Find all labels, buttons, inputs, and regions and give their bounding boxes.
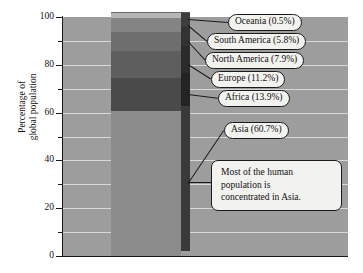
tick-label-100: 100 <box>26 12 54 22</box>
tick-label-0: 0 <box>26 251 54 261</box>
tick-major-100 <box>56 17 63 18</box>
callout-asia[interactable]: Asia (60.7%) <box>224 122 289 139</box>
bar-segment-north-america <box>111 32 181 51</box>
y-axis-title-line-2: global population <box>28 27 39 187</box>
annotation-line-3: concentrated in Asia. <box>221 191 333 204</box>
bar-segment-side-oceania <box>181 12 190 13</box>
tick-major-60 <box>56 113 63 114</box>
stacked-bar <box>111 17 195 256</box>
bar-segment-side-europe <box>181 46 190 73</box>
tick-minor-30 <box>58 184 63 185</box>
tick-minor-50 <box>58 137 63 138</box>
gridline-50 <box>63 137 348 138</box>
tick-label-20: 20 <box>26 203 54 213</box>
callout-south-america[interactable]: South America (5.8%) <box>207 33 306 50</box>
callout-europe[interactable]: Europe (11.2%) <box>211 71 285 88</box>
tick-major-80 <box>56 65 63 66</box>
bar-segment-oceania <box>111 17 181 18</box>
callout-oceania[interactable]: Oceania (0.5%) <box>228 14 302 31</box>
y-axis-title: Percentage of global population <box>17 27 39 187</box>
x-axis-line <box>62 256 348 257</box>
bar-segment-africa <box>111 78 181 111</box>
bar-segment-asia <box>111 111 181 256</box>
tick-minor-70 <box>58 89 63 90</box>
bar-segment-side-africa <box>181 73 190 106</box>
bar-segment-south-america <box>111 18 181 32</box>
annotation-asia-note[interactable]: Most of the humanpopulation isconcentrat… <box>211 160 342 211</box>
chart-figure: 020406080100 Percentage of global popula… <box>0 0 363 273</box>
tick-major-40 <box>56 160 63 161</box>
bar-segment-europe <box>111 51 181 78</box>
tick-minor-10 <box>58 232 63 233</box>
leader-line-asia-note <box>188 182 211 183</box>
gridline-10 <box>63 232 348 233</box>
bar-segment-side-asia <box>181 106 190 251</box>
gridline-60 <box>63 113 348 114</box>
annotation-line-1: Most of the human <box>221 166 333 179</box>
tick-major-0 <box>56 256 63 257</box>
tick-minor-90 <box>58 41 63 42</box>
callout-north-america[interactable]: North America (7.9%) <box>205 52 304 69</box>
y-axis-title-line-1: Percentage of <box>17 27 28 187</box>
gridline-70 <box>63 89 348 90</box>
tick-major-20 <box>56 208 63 209</box>
callout-africa[interactable]: Africa (13.9%) <box>218 90 290 107</box>
annotation-line-2: population is <box>221 179 333 192</box>
plot-area <box>63 17 348 256</box>
